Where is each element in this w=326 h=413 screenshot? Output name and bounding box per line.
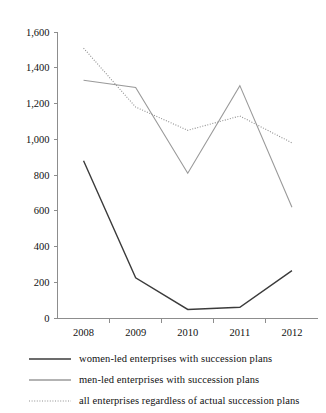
legend-swatch-dotted-gray — [29, 395, 71, 407]
legend-item-men-led: men-led enterprises with succession plan… — [0, 369, 326, 390]
chart-svg: 02004006008001,0001,2001,4001,600 200820… — [0, 0, 326, 345]
series-line-0 — [84, 161, 292, 310]
legend-label-women-led: women-led enterprises with succession pl… — [79, 353, 272, 364]
legend-swatch-solid-gray — [29, 374, 71, 386]
x-tick-label: 2009 — [125, 327, 146, 338]
y-tick-label: 0 — [44, 313, 49, 324]
x-tick-label: 2010 — [177, 327, 198, 338]
x-tick-label: 2011 — [230, 327, 251, 338]
y-tick-label: 200 — [34, 277, 50, 288]
plot-area: 02004006008001,0001,2001,4001,600 200820… — [0, 0, 326, 345]
x-tick-group: 20082009201020112012 — [73, 318, 302, 338]
chart-legend: women-led enterprises with succession pl… — [0, 348, 326, 413]
y-tick-label: 800 — [34, 170, 50, 181]
x-axis: 20082009201020112012 — [58, 318, 319, 338]
legend-item-all-enterprises: all enterprises regardless of actual suc… — [0, 390, 326, 411]
series-line-2 — [84, 48, 292, 143]
y-tick-label: 1,400 — [26, 62, 50, 73]
y-tick-label: 1,600 — [26, 27, 50, 38]
x-tick-label: 2012 — [281, 327, 302, 338]
y-tick-group: 02004006008001,0001,2001,4001,600 — [26, 27, 58, 324]
x-tick-label: 2008 — [73, 327, 94, 338]
series-line-1 — [84, 80, 292, 207]
y-tick-label: 1,000 — [26, 134, 50, 145]
legend-label-all-enterprises: all enterprises regardless of actual suc… — [79, 395, 299, 406]
legend-item-women-led: women-led enterprises with succession pl… — [0, 348, 326, 369]
legend-label-men-led: men-led enterprises with succession plan… — [79, 374, 259, 385]
y-tick-label: 600 — [34, 205, 50, 216]
y-tick-label: 400 — [34, 241, 50, 252]
line-chart-figure: 02004006008001,0001,2001,4001,600 200820… — [0, 0, 326, 413]
series-group — [84, 48, 292, 309]
legend-swatch-solid-dark — [29, 353, 71, 365]
y-tick-label: 1,200 — [26, 98, 50, 109]
y-axis: 02004006008001,0001,2001,4001,600 — [26, 27, 58, 324]
